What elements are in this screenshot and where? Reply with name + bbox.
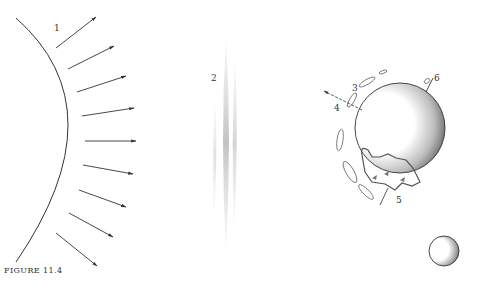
label-5: 5 [396, 195, 402, 205]
label-4: 4 [334, 103, 340, 113]
sun-group: 1 [16, 17, 136, 266]
label-6: 6 [434, 73, 440, 83]
moon-sphere [429, 236, 459, 266]
figure-caption: FIGURE 11.4 [4, 266, 62, 275]
radiation-arrows [56, 17, 136, 266]
earth-group: 5 6 3 4 [324, 69, 445, 205]
earth-sphere [355, 83, 445, 173]
label-1: 1 [54, 23, 60, 33]
haze-streak: 2 [211, 35, 237, 250]
sun-limb-arc [16, 18, 68, 262]
label-2: 2 [211, 73, 217, 83]
label-3: 3 [352, 83, 358, 93]
pointer-5 [380, 188, 388, 205]
figure-diagram: 1 2 5 6 3 4 [0, 0, 478, 285]
